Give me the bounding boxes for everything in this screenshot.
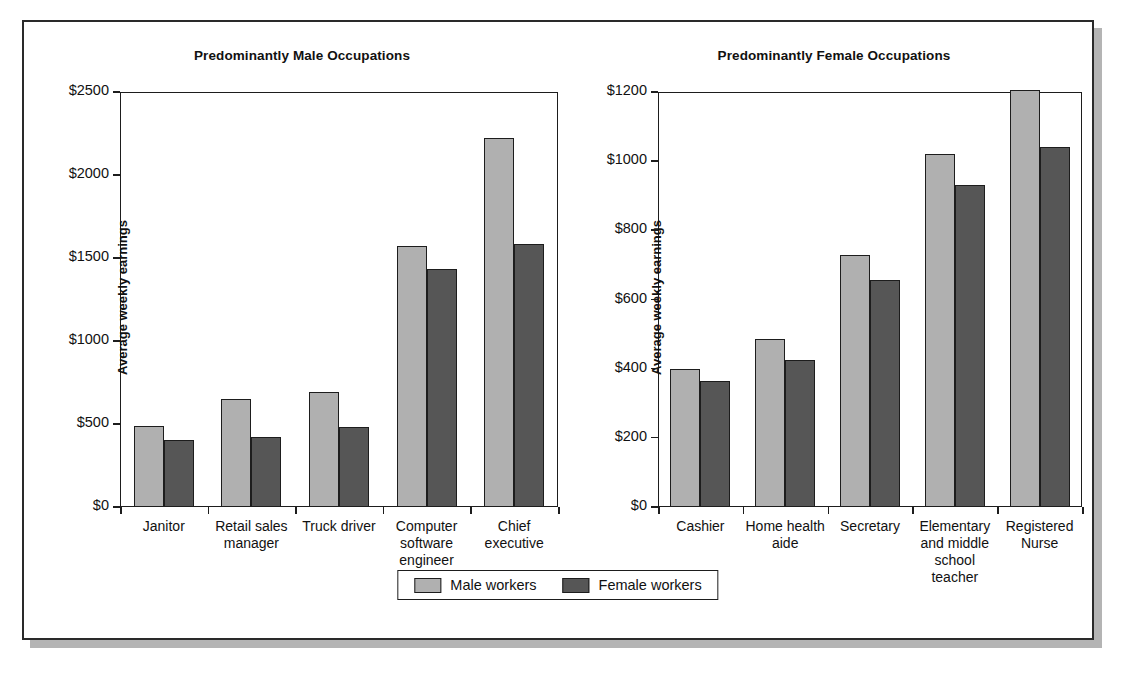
y-tick-mark xyxy=(651,91,658,93)
bar-female xyxy=(164,440,194,507)
bar-male xyxy=(397,246,427,507)
y-tick-label: $2500 xyxy=(69,82,109,98)
y-tick-label: $200 xyxy=(615,428,647,444)
bar-group xyxy=(208,92,296,507)
bar-male xyxy=(840,255,870,507)
x-tick-mark xyxy=(1082,507,1084,514)
y-tick-label: $2000 xyxy=(69,165,109,181)
bar-male xyxy=(134,426,164,507)
bar-group xyxy=(997,92,1082,507)
charts-row: Predominantly Male Occupations Average w… xyxy=(24,22,1092,562)
bar-groups-male xyxy=(120,92,558,507)
bar-group xyxy=(120,92,208,507)
x-axis-category-label: Home health aide xyxy=(743,518,828,586)
y-tick-label: $1000 xyxy=(607,151,647,167)
bar-group xyxy=(658,92,743,507)
x-tick-mark xyxy=(120,507,122,514)
x-axis-labels-female: CashierHome health aideSecretaryElementa… xyxy=(658,518,1082,586)
x-tick-mark xyxy=(383,507,385,514)
y-tick-mark xyxy=(113,340,120,342)
y-tick-mark xyxy=(651,160,658,162)
chart-male-occupations: Predominantly Male Occupations Average w… xyxy=(32,22,572,562)
y-tick-label: $1500 xyxy=(69,248,109,264)
bar-male xyxy=(309,392,339,507)
y-tick-mark xyxy=(651,368,658,370)
y-tick-mark xyxy=(113,257,120,259)
y-tick-mark xyxy=(651,506,658,508)
x-tick-mark xyxy=(912,507,914,514)
bar-male xyxy=(1010,90,1040,507)
y-tick-label: $800 xyxy=(615,220,647,236)
x-axis-category-label: Janitor xyxy=(120,518,208,569)
legend-swatch-male xyxy=(414,578,441,593)
y-tick-mark xyxy=(113,506,120,508)
x-axis-category-label: Elementary and middle school teacher xyxy=(912,518,997,586)
x-tick-mark xyxy=(295,507,297,514)
bar-group xyxy=(470,92,558,507)
bar-female xyxy=(427,269,457,507)
bar-male xyxy=(670,369,700,507)
y-tick-mark xyxy=(113,423,120,425)
x-tick-mark xyxy=(558,507,560,514)
bar-female xyxy=(1040,147,1070,507)
plot-area-female: Average weekly earnings $0$200$400$600$8… xyxy=(658,92,1082,507)
chart-title-female: Predominantly Female Occupations xyxy=(580,48,1088,63)
bar-male xyxy=(925,154,955,507)
bar-male xyxy=(221,399,251,507)
x-tick-mark xyxy=(658,507,660,514)
plot-area-male: Average weekly earnings $0$500$1000$1500… xyxy=(120,92,558,507)
x-axis-category-label: Truck driver xyxy=(295,518,383,569)
y-tick-label: $600 xyxy=(615,290,647,306)
bar-group xyxy=(828,92,913,507)
bar-group xyxy=(743,92,828,507)
bar-group xyxy=(912,92,997,507)
bar-female xyxy=(700,381,730,507)
x-axis-labels-male: JanitorRetail sales managerTruck driverC… xyxy=(120,518,558,569)
legend-label-male: Male workers xyxy=(450,577,536,593)
y-tick-mark xyxy=(651,437,658,439)
x-axis-category-label: Registered Nurse xyxy=(997,518,1082,586)
bar-male xyxy=(755,339,785,507)
x-tick-mark xyxy=(208,507,210,514)
y-tick-label: $500 xyxy=(77,414,109,430)
bar-female xyxy=(514,244,544,507)
y-tick-mark xyxy=(113,174,120,176)
y-tick-label: $1000 xyxy=(69,331,109,347)
figure-panel: Predominantly Male Occupations Average w… xyxy=(22,20,1094,640)
x-axis-category-label: Chief executive xyxy=(470,518,558,569)
x-tick-mark xyxy=(470,507,472,514)
y-tick-label: $0 xyxy=(631,497,647,513)
bar-female xyxy=(955,185,985,507)
chart-female-occupations: Predominantly Female Occupations Average… xyxy=(580,22,1088,562)
legend-item-female: Female workers xyxy=(563,577,702,593)
x-tick-mark xyxy=(828,507,830,514)
bar-female xyxy=(251,437,281,507)
x-axis-category-label: Secretary xyxy=(828,518,913,586)
bar-female xyxy=(785,360,815,507)
y-tick-mark xyxy=(651,229,658,231)
y-tick-label: $400 xyxy=(615,359,647,375)
chart-title-male: Predominantly Male Occupations xyxy=(32,48,572,63)
bar-group xyxy=(295,92,383,507)
legend-item-male: Male workers xyxy=(414,577,536,593)
bar-group xyxy=(383,92,471,507)
bar-groups-female xyxy=(658,92,1082,507)
x-tick-mark xyxy=(743,507,745,514)
bar-male xyxy=(484,138,514,507)
x-tick-mark xyxy=(997,507,999,514)
y-tick-label: $0 xyxy=(93,497,109,513)
y-tick-mark xyxy=(651,299,658,301)
bar-female xyxy=(339,427,369,507)
x-axis-category-label: Computer software engineer xyxy=(383,518,471,569)
y-tick-mark xyxy=(113,91,120,93)
legend-label-female: Female workers xyxy=(599,577,702,593)
bar-female xyxy=(870,280,900,507)
y-tick-label: $1200 xyxy=(607,82,647,98)
chart-legend: Male workersFemale workers xyxy=(397,570,718,600)
x-axis-category-label: Retail sales manager xyxy=(208,518,296,569)
legend-swatch-female xyxy=(563,578,590,593)
